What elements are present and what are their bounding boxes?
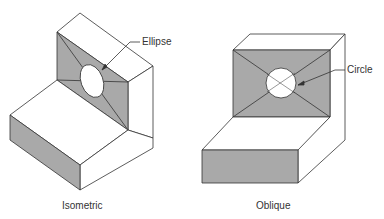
circle-label: Circle bbox=[347, 64, 373, 75]
obl-upright-top bbox=[233, 34, 345, 50]
circle-hole bbox=[266, 68, 296, 98]
isometric-caption: Isometric bbox=[62, 200, 103, 211]
oblique-caption: Oblique bbox=[256, 200, 290, 211]
isometric-figure bbox=[10, 13, 153, 190]
projection-diagram bbox=[0, 0, 384, 219]
ellipse-label: Ellipse bbox=[142, 36, 171, 47]
oblique-figure bbox=[202, 34, 345, 183]
obl-base-front bbox=[202, 150, 298, 183]
